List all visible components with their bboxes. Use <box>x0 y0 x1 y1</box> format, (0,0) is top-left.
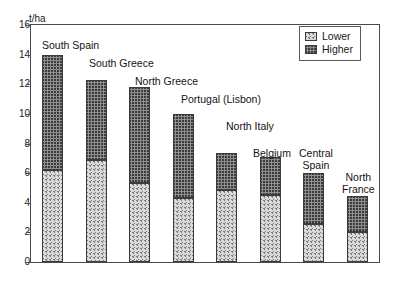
bar-segment-higher <box>347 196 368 232</box>
bar-annotation-label: Belgium <box>253 147 291 159</box>
stacked-bar-chart: t/ha 1614121086420 South SpainSouth Gree… <box>0 0 399 284</box>
bar-portugal-lisbon <box>173 114 194 262</box>
bar-annotation-label: South Spain <box>42 39 99 51</box>
bar-segment-lower <box>42 170 63 262</box>
bar-north-greece <box>129 87 150 262</box>
bar-segment-lower <box>303 224 324 263</box>
bar-south-spain <box>42 55 63 262</box>
bar-segment-higher <box>42 55 63 171</box>
y-axis-unit-label: t/ha <box>29 13 46 24</box>
bar-segment-higher <box>303 173 324 223</box>
bar-segment-higher <box>216 153 237 190</box>
bar-segment-lower <box>260 195 281 262</box>
legend-item-lower[interactable]: Lower <box>305 30 353 43</box>
bar-annotation-label: North Italy <box>226 120 274 132</box>
bar-north-france <box>347 196 368 262</box>
bar-segment-lower <box>216 190 237 262</box>
bar-segment-higher <box>260 157 281 195</box>
bar-belgium <box>260 157 281 262</box>
bar-segment-higher <box>86 80 107 160</box>
bar-north-italy <box>216 153 237 262</box>
bar-annotation-label: North Greece <box>135 75 198 87</box>
bar-annotation-label: South Greece <box>89 57 154 69</box>
chart-legend: LowerHigher <box>299 26 361 61</box>
legend-label: Higher <box>322 44 353 55</box>
bar-segment-lower <box>173 198 194 262</box>
bar-segment-higher <box>129 87 150 183</box>
legend-label: Lower <box>322 31 351 42</box>
bar-segment-lower <box>86 160 107 262</box>
legend-item-higher[interactable]: Higher <box>305 43 353 56</box>
bar-central-spain <box>303 173 324 262</box>
bar-segment-lower <box>129 183 150 262</box>
bar-annotation-label: Portugal (Lisbon) <box>181 93 261 105</box>
bar-annotation-label: North France <box>342 171 375 195</box>
bar-annotation-label: Central Spain <box>299 147 333 171</box>
y-axis-ticks: 1614121086420 <box>0 24 30 263</box>
bar-segment-higher <box>173 114 194 198</box>
bar-south-greece <box>86 80 107 262</box>
light-diagonal-hatch-swatch <box>305 32 317 41</box>
bar-segment-lower <box>347 232 368 262</box>
dark-crosshatch-swatch <box>305 45 317 54</box>
